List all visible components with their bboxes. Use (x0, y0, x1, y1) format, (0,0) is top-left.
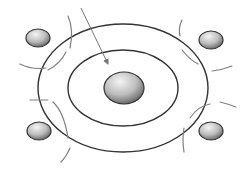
sphere-top-right (199, 31, 223, 49)
sphere-bottom-left (27, 122, 51, 140)
sphere-bottom-right (199, 122, 223, 140)
diagram-canvas (0, 0, 246, 174)
orbit-diagram (0, 0, 246, 174)
center-sphere (104, 72, 144, 104)
sphere-top-left (26, 29, 50, 47)
